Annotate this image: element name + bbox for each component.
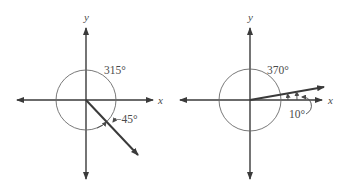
terminal-side-ray — [86, 100, 138, 155]
angle-label-315: 315° — [104, 64, 126, 76]
diagram-canvas: x y 315° −45° x y 3 — [0, 0, 348, 189]
y-axis-label: y — [83, 11, 89, 23]
terminal-side-ray — [250, 87, 324, 100]
angle-label-neg45: −45° — [115, 113, 138, 125]
y-axis-label: y — [247, 11, 253, 23]
angle-label-10: 10° — [289, 108, 306, 120]
angle-label-370: 370° — [267, 64, 289, 76]
figure-315-degrees: x y 315° −45° — [17, 11, 163, 179]
figure-370-degrees: x y 370° 10° — [180, 11, 333, 179]
x-axis-label: x — [157, 94, 163, 106]
x-axis-label: x — [327, 94, 333, 106]
rotation-arrow-positive — [97, 122, 106, 128]
reference-arc-inner — [288, 94, 289, 100]
reference-arc-outer — [297, 92, 298, 100]
